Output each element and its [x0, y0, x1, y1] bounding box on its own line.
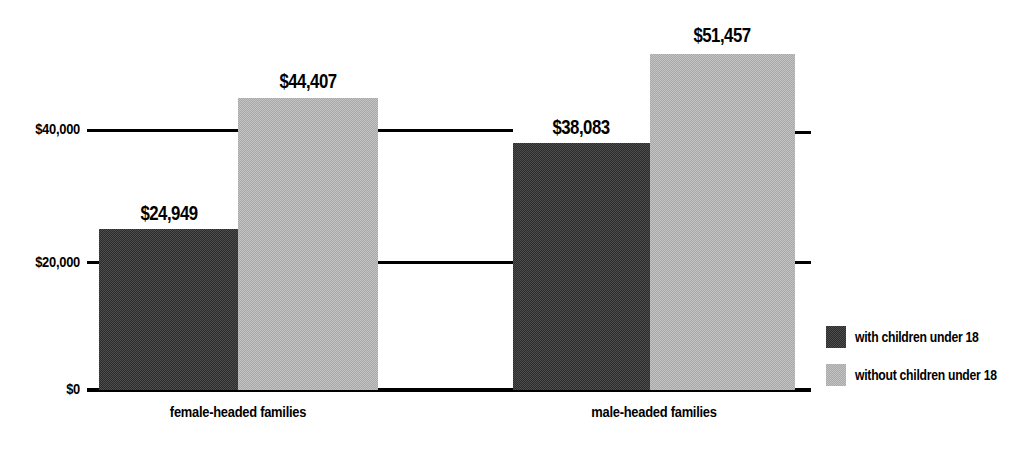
y-tick-label-0: $0: [0, 381, 80, 396]
y-tick-label-20000: $20,000: [0, 254, 80, 269]
tick-20000-right: [793, 261, 811, 264]
category-label-male-headed-families: male-headed families: [559, 404, 748, 419]
legend-swatch-light-icon: [826, 364, 846, 386]
category-label-female-headed-families: female-headed families: [143, 404, 332, 419]
legend: with children under 18 without children …: [826, 322, 1014, 398]
bar-female-with-children[interactable]: [99, 229, 238, 390]
gridline-40000-middle: [378, 129, 513, 132]
plot-area: $40,000 $20,000 $0 $24,949 $44,407 $38,0…: [0, 0, 1014, 450]
tick-40000-right: [793, 131, 811, 134]
gridline-20000-middle: [378, 261, 513, 264]
legend-item-with-children[interactable]: with children under 18: [826, 322, 1014, 352]
bar-male-with-children[interactable]: [513, 143, 650, 390]
gridline-40000-left: [87, 129, 239, 132]
legend-item-without-children[interactable]: without children under 18: [826, 360, 1014, 390]
value-label-female-without-children: $44,407: [248, 71, 367, 91]
legend-label-without-children: without children under 18: [855, 368, 997, 382]
value-label-male-without-children: $51,457: [662, 25, 781, 45]
value-label-male-with-children: $38,083: [521, 117, 640, 137]
bar-female-without-children[interactable]: [238, 98, 378, 390]
bar-male-without-children[interactable]: [650, 54, 795, 390]
y-tick-label-40000: $40,000: [0, 121, 80, 136]
legend-swatch-dark-icon: [826, 326, 846, 348]
bar-chart: $40,000 $20,000 $0 $24,949 $44,407 $38,0…: [0, 0, 1014, 450]
value-label-female-with-children: $24,949: [109, 203, 228, 223]
legend-label-with-children: with children under 18: [855, 330, 979, 344]
